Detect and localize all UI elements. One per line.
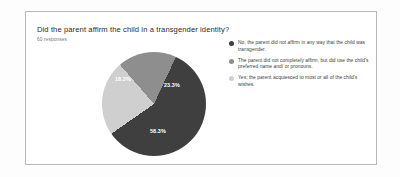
legend-item[interactable]: No, the parent did not affirm in any way… [229,40,371,53]
legend-bullet-icon [229,41,234,46]
response-card: Did the parent affirm the child in a tra… [25,11,377,165]
pie-slice-label-0: 58.3% [150,128,166,134]
pie-disc [102,52,206,156]
legend-item-label: No, the parent did not affirm in any way… [238,40,371,53]
pie-graphic: 58.3% 23.3% 18.3% [102,52,206,156]
pie-chart: 58.3% 23.3% 18.3% [84,46,224,162]
legend-item[interactable]: Yes; the parent acquiesced to most or al… [229,75,371,88]
page-title: Did the parent affirm the child in a tra… [37,25,229,34]
legend-bullet-icon [229,76,234,81]
card-inner: Did the parent affirm the child in a tra… [26,12,376,164]
screenshot-root: Did the parent affirm the child in a tra… [0,0,400,177]
legend-item[interactable]: The parent did not completely affirm, bu… [229,58,371,71]
response-count: 60 responses [37,37,67,42]
pie-slice-label-2: 18.3% [115,76,131,82]
chart-legend: No, the parent did not affirm in any way… [229,40,371,93]
legend-item-label: Yes; the parent acquiesced to most or al… [238,75,371,88]
legend-item-label: The parent did not completely affirm, bu… [238,58,371,71]
legend-bullet-icon [229,59,234,64]
pie-slice-label-1: 23.3% [164,82,180,88]
